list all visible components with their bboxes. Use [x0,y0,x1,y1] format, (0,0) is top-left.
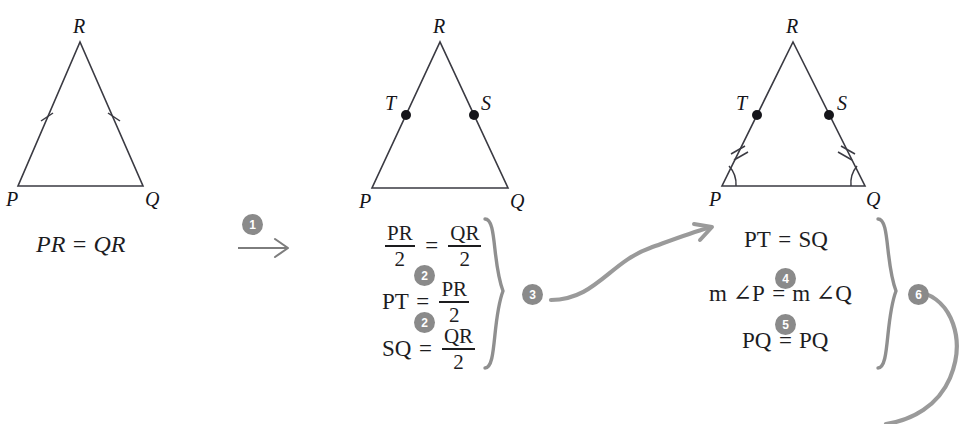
term-PQ-right: PQ [799,329,828,352]
fraction-PR-2: PR 2 [439,278,469,326]
triangle-3-label-T: T [736,93,747,113]
term-angle-Q: m ∠Q [792,282,852,305]
triangle-2-label-P: P [359,191,371,211]
arrow-curved-3-shaft [886,292,957,424]
triangle-3-label-S: S [837,93,847,113]
brace-group-2-path [485,219,503,368]
term-angle-P: m ∠P [709,282,765,305]
step-badge-6[interactable]: 6 [908,284,929,305]
step-badge-2a[interactable]: 2 [414,265,435,286]
term-SQ: SQ [798,228,827,251]
geometry-layer [0,0,962,424]
triangle-1-outline [18,42,143,186]
step-badge-1[interactable]: 1 [242,214,263,235]
term-PQ-left: PQ [742,329,771,352]
fraction-PR-2: PR 2 [385,222,415,270]
triangle-2-midpoint-S-dot [469,110,479,120]
equation-line-3-1: PT = SQ [744,228,828,251]
term-PT: PT [382,290,409,313]
triangle-1-label-R: R [73,16,85,36]
equation-line-2-3: SQ = QR 2 [382,325,478,373]
triangle-3-midpoint-T-dot [752,110,762,120]
triangle-2-label-R: R [433,16,445,36]
step-badge-5[interactable]: 5 [775,314,796,335]
term-PT: PT [744,228,771,251]
triangle-3-label-Q: Q [866,189,880,209]
brace-group-3 [878,219,896,368]
brace-group-2 [485,219,503,368]
triangle-2-label-S: S [481,93,491,113]
triangle-3-label-P: P [709,189,721,209]
equals-sign: = [415,290,431,313]
fraction-QR-2: QR 2 [442,325,475,373]
step-badge-3[interactable]: 3 [522,284,543,305]
triangle-2-midpoint-T-dot [401,110,411,120]
equals-sign: = [417,337,433,360]
triangle-3-midpoint-S-dot [824,110,834,120]
triangle-2 [372,42,508,188]
triangle-3 [722,42,865,186]
arrow-straight-1 [238,239,288,257]
triangle-3-label-R: R [786,16,798,36]
step-badge-4[interactable]: 4 [775,268,796,289]
triangle-3-outline [722,42,865,186]
arrow-curved-3 [886,292,957,424]
step-badge-2b[interactable]: 2 [414,312,435,333]
term-SQ: SQ [382,337,411,360]
brace-group-3-path [878,219,896,368]
triangle-2-label-T: T [385,93,396,113]
equals-sign: = [424,234,440,257]
triangle-2-label-Q: Q [510,191,524,211]
triangle-1-label-Q: Q [145,189,159,209]
triangle-1-caption: PR = QR [36,232,126,256]
equation-line-2-1: PR 2 = QR 2 [382,222,484,270]
triangle-1 [18,42,143,186]
triangle-1-label-P: P [6,189,18,209]
proof-flow-figure: R P Q R P Q T S R P Q T S PR = QR PR 2 =… [0,0,962,424]
fraction-QR-2: QR 2 [448,222,481,270]
equals-sign: = [777,228,793,251]
arrow-curved-2-shaft [551,228,708,300]
arrow-curved-2 [551,224,712,300]
triangle-2-outline [372,42,508,188]
